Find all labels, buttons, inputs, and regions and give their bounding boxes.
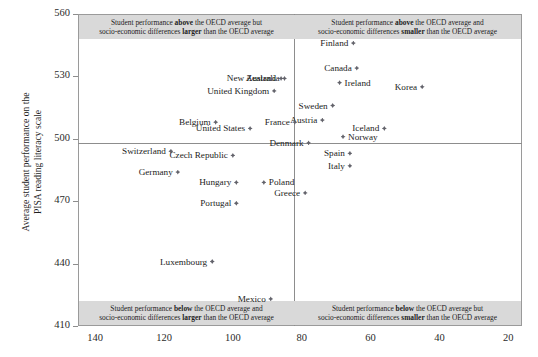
data-point-label: Finland: [320, 38, 348, 48]
x-axis-tick-label: 80: [282, 332, 322, 343]
q-tl-l2a: socio-economic differences: [99, 27, 182, 36]
q-tr-l1c: the OECD average and: [413, 18, 483, 27]
data-point-label: Korea: [395, 82, 417, 92]
y-axis-tick-label: 530: [36, 69, 70, 80]
x-axis-tick-label: 100: [213, 332, 253, 343]
q-bl-l2b: larger: [182, 313, 201, 322]
q-tl-l1b: above: [175, 18, 193, 27]
y-axis-tick-label: 500: [36, 132, 70, 143]
oecd-average-socioeconomic-line: [294, 14, 295, 326]
x-axis-tick-label: 120: [144, 332, 184, 343]
y-axis-title-line2: PISA reading literacy scale: [32, 67, 44, 257]
y-axis-tick-label: 470: [36, 194, 70, 205]
data-point-label: France: [265, 117, 290, 127]
q-br-l2a: socio-economic differences: [318, 313, 401, 322]
y-axis-tick-mark: [73, 326, 78, 327]
data-point-label: Poland: [269, 177, 295, 187]
data-point-label: Portugal: [200, 198, 231, 208]
data-point-label: Luxembourg: [160, 257, 207, 267]
data-point-label: Ireland: [345, 78, 371, 88]
q-bl-l1b: below: [174, 304, 192, 313]
q-tr-l2a: socio-economic differences: [318, 27, 401, 36]
data-point-label: Denmark: [269, 138, 303, 148]
quadrant-caption-bottom-right: Student performance below the OECD avera…: [294, 301, 521, 325]
y-axis-title-line1: Average student performance on the: [20, 67, 32, 257]
data-point-label: Italy: [328, 161, 345, 171]
y-axis-tick-label: 560: [36, 7, 70, 18]
q-tr-l2c: than the OECD average: [425, 27, 497, 36]
q-tl-l1a: Student performance: [111, 18, 175, 27]
q-br-l1b: below: [396, 304, 414, 313]
quadrant-caption-top-left: Student performance above the OECD avera…: [79, 15, 294, 39]
data-point-label: Mexico: [238, 294, 266, 304]
y-axis-tick-label: 440: [36, 257, 70, 268]
q-tl-l2b: larger: [182, 27, 201, 36]
data-point-label: Norway: [348, 132, 378, 142]
chart-root: Average student performance on the PISA …: [0, 0, 538, 357]
data-point-label: Hungary: [199, 177, 231, 187]
data-point-label: Greece: [274, 188, 300, 198]
q-tr-l1a: Student performance: [331, 18, 395, 27]
data-point-label: United States: [196, 123, 245, 133]
q-br-l1a: Student performance: [332, 304, 396, 313]
q-tl-l2c: than the OECD average: [202, 27, 274, 36]
x-axis-tick-label: 40: [419, 332, 459, 343]
q-tr-l1b: above: [395, 18, 413, 27]
x-axis-tick-label: 20: [488, 332, 528, 343]
q-br-l2b: smaller: [401, 313, 424, 322]
q-br-l1c: the OECD average but: [414, 304, 483, 313]
q-tl-l1c: the OECD average but: [193, 18, 262, 27]
data-point-label: United Kingdom: [207, 86, 269, 96]
q-bl-l1a: Student performance: [110, 304, 174, 313]
y-axis-title: Average student performance on the PISA …: [20, 67, 44, 257]
data-point-label: Spain: [324, 148, 345, 158]
q-br-l2c: than the OECD average: [425, 313, 497, 322]
q-bl-l2a: socio-economic differences: [99, 313, 182, 322]
quadrant-caption-bottom-left: Student performance below the OECD avera…: [79, 301, 294, 325]
data-point-label: Czech Republic: [169, 150, 227, 160]
x-axis-tick-label: 140: [75, 332, 115, 343]
data-point-label: Sweden: [299, 101, 328, 111]
y-axis-tick-label: 410: [36, 319, 70, 330]
quadrant-caption-top-right: Student performance above the OECD avera…: [294, 15, 521, 39]
q-bl-l1c: the OECD average and: [192, 304, 262, 313]
data-point-label: Canada: [324, 63, 352, 73]
x-axis-tick-label: 60: [351, 332, 391, 343]
data-point-label: Germany: [139, 167, 173, 177]
data-point-label: New Zealand: [227, 73, 276, 83]
q-bl-l2c: than the OECD average: [202, 313, 274, 322]
q-tr-l2b: smaller: [401, 27, 424, 36]
data-point-label: Switzerland: [122, 146, 166, 156]
